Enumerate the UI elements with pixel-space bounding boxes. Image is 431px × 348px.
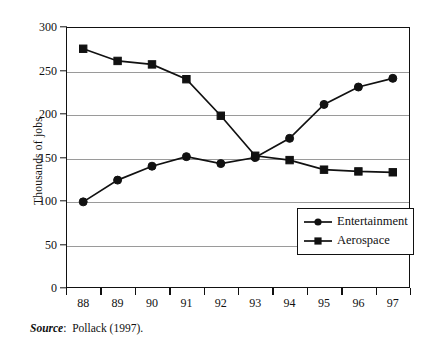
y-axis-tick-label: 250 [17,63,57,78]
legend-label-aerospace: Aerospace [337,234,390,247]
y-axis-tick-label: 200 [17,107,57,122]
gridline [67,115,409,116]
y-axis-tick-label: 300 [17,20,57,35]
source-citation: Pollack (1997). [72,322,143,334]
source-separator: : [63,322,66,334]
source-note: Source: Pollack (1997). [30,322,143,334]
figure: Thousands of jobs 050100150200250300 888… [0,0,431,348]
y-axis-tick-label: 0 [17,281,57,296]
gridline [67,202,409,203]
y-axis-tick-label: 100 [17,194,57,209]
legend-item-entertainment: Entertainment [298,212,413,231]
legend-label-entertainment: Entertainment [337,215,408,228]
x-axis-tick-mark [100,288,101,295]
source-label: Source [30,322,63,334]
legend-marker-square-icon [303,234,333,248]
x-axis-tick-mark [376,288,377,295]
y-axis-tick-label: 50 [17,237,57,252]
legend-marker-circle-icon [303,215,333,229]
chart-legend: Entertainment Aerospace [297,208,414,255]
x-axis-tick-mark [272,288,273,295]
gridline [67,159,409,160]
x-axis-tick-mark [238,288,239,295]
gridline [67,72,409,73]
x-axis-tick-mark [204,288,205,295]
x-axis-tick-mark [66,288,67,295]
x-axis-tick-mark [341,288,342,295]
legend-item-aerospace: Aerospace [298,231,413,250]
x-axis-tick-mark [410,288,411,295]
x-axis-tick-mark [135,288,136,295]
x-axis-tick-mark [169,288,170,295]
x-axis-tick-label: 97 [373,296,413,311]
y-axis-tick-label: 150 [17,150,57,165]
x-axis-tick-mark [307,288,308,295]
